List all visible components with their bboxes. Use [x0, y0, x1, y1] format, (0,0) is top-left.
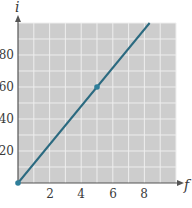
data-point [15, 180, 21, 186]
y-tick-labels: 20 40 60 80 [0, 48, 14, 158]
x-tick-label: 4 [77, 187, 85, 201]
x-axis-label: f [183, 177, 192, 193]
x-axis-arrow-icon [177, 180, 184, 186]
data-point [94, 84, 100, 90]
x-tick-labels: 2 4 6 8 [46, 187, 148, 201]
y-tick-label: 40 [0, 112, 14, 126]
y-axis-label: i [15, 0, 19, 15]
x-tick-label: 8 [140, 187, 148, 201]
y-tick-label: 20 [0, 144, 14, 158]
y-tick-label: 60 [0, 80, 14, 94]
line-chart: f i 2 4 6 8 20 40 60 80 [0, 0, 192, 208]
x-tick-label: 6 [109, 187, 117, 201]
y-tick-label: 80 [0, 48, 14, 62]
x-tick-label: 2 [46, 187, 54, 201]
y-axis-arrow-icon [15, 15, 21, 22]
